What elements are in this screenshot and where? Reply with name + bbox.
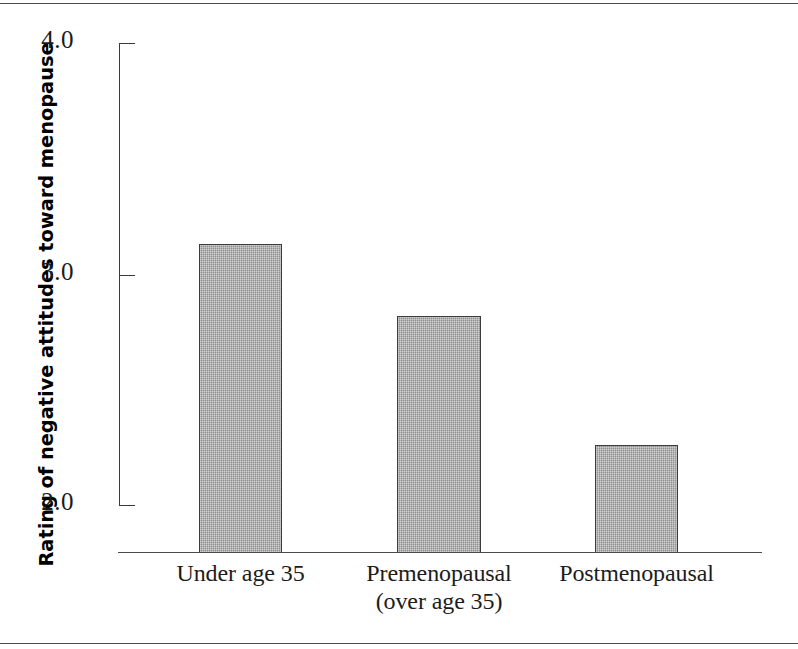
bottom-rule (0, 643, 798, 644)
x-axis-label-line-2: (over age 35) (289, 588, 589, 616)
chart-plot-area: Rating of negative attitudes toward meno… (0, 0, 798, 630)
y-tick-label-3: 3.0 (4, 258, 74, 286)
x-axis-label-line-1: Postmenopausal (559, 560, 714, 586)
bar-under-age-35 (199, 244, 282, 553)
y-tick-mark-4 (120, 43, 135, 44)
y-tick-mark-2 (120, 505, 135, 506)
x-axis-line (118, 552, 762, 553)
x-axis-label-line-1: Under age 35 (176, 560, 304, 586)
figure-container: Rating of negative attitudes toward meno… (0, 0, 798, 649)
y-tick-mark-3 (120, 275, 135, 276)
bar-postmenopausal (595, 445, 678, 553)
bar-premenopausal (397, 316, 481, 553)
y-tick-label-4: 4.0 (4, 26, 74, 54)
y-tick-label-2: 2.0 (4, 488, 74, 516)
x-axis-label-postmenopausal: Postmenopausal (487, 560, 787, 588)
